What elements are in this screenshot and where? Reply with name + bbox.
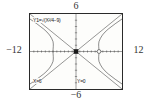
graph-plot-area (30, 14, 122, 89)
origin-marker (74, 49, 79, 54)
axis-label-xmin: −12 (1, 45, 27, 55)
axis-label-ymax: 6 (0, 1, 152, 11)
axis-label-ymin: −6 (0, 90, 152, 100)
trace-cursor[interactable] (97, 50, 101, 54)
trace-x-value: X=6 (33, 78, 41, 84)
equation-label: Y1=√(X²/4−9) (33, 17, 61, 23)
axis-label-xmax: 12 (126, 45, 151, 55)
trace-y-value: Y=0 (77, 78, 85, 84)
calculator-graph-figure: 6 −12 12 −6 (0, 0, 152, 104)
calculator-screen: Y1=√(X²/4−9) X=6 Y=0 (29, 13, 123, 90)
